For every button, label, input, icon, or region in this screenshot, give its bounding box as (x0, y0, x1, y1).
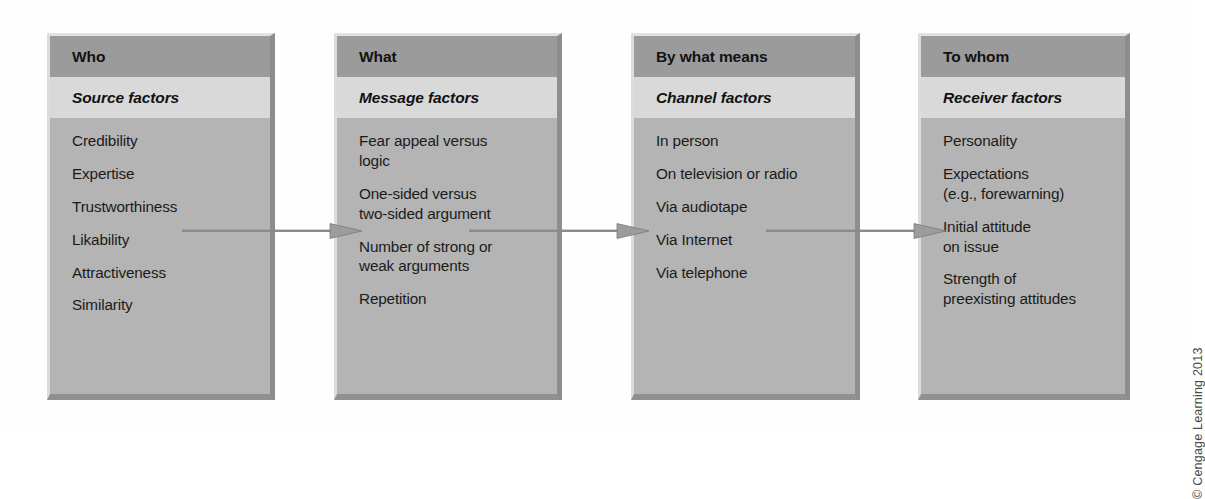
box-by-what-means-header: By what means (634, 36, 855, 77)
box-to-whom-subtitle-label: Receiver factors (943, 89, 1062, 107)
box-what-inner: What Message factors Fear appeal versus … (337, 36, 557, 394)
list-item: On television or radio (656, 164, 839, 184)
diagram-box-who: Who Source factors Credibility Expertise… (47, 33, 275, 400)
list-item: Fear appeal versus logic (359, 131, 541, 171)
list-item: Attractiveness (72, 263, 254, 283)
box-to-whom-header-label: To whom (943, 48, 1009, 66)
box-by-what-means-item-list: In person On television or radio Via aud… (634, 118, 855, 282)
list-item: Expectations (e.g., forewarning) (943, 164, 1109, 204)
box-by-what-means-inner: By what means Channel factors In person … (634, 36, 855, 394)
arrow-right-icon (766, 222, 946, 240)
box-to-whom-inner: To whom Receiver factors Personality Exp… (921, 36, 1125, 394)
box-by-what-means-header-label: By what means (656, 48, 768, 66)
box-what-header-label: What (359, 48, 396, 66)
arrow-right-icon (182, 222, 362, 240)
box-who-header-label: Who (72, 48, 105, 66)
box-what-header: What (337, 36, 557, 77)
box-what-subtitle-label: Message factors (359, 89, 479, 107)
copyright-notice: © Cengage Learning 2013 (1191, 347, 1205, 498)
list-item: Repetition (359, 289, 541, 309)
box-who-subtitle: Source factors (50, 77, 270, 118)
diagram-box-what: What Message factors Fear appeal versus … (334, 33, 562, 400)
list-item: Via telephone (656, 263, 839, 283)
box-who-subtitle-label: Source factors (72, 89, 179, 107)
diagram-box-by-what-means: By what means Channel factors In person … (631, 33, 860, 400)
box-what-item-list: Fear appeal versus logic One-sided versu… (337, 118, 557, 309)
diagram-box-to-whom: To whom Receiver factors Personality Exp… (918, 33, 1130, 400)
list-item: Credibility (72, 131, 254, 151)
box-who-item-list: Credibility Expertise Trustworthiness Li… (50, 118, 270, 315)
box-to-whom-item-list: Personality Expectations (e.g., forewarn… (921, 118, 1125, 309)
list-item: Strength of preexisting attitudes (943, 269, 1109, 309)
arrow-right-icon (469, 222, 649, 240)
list-item: Initial attitude on issue (943, 217, 1109, 257)
list-item: Personality (943, 131, 1109, 151)
box-what-subtitle: Message factors (337, 77, 557, 118)
box-by-what-means-subtitle: Channel factors (634, 77, 855, 118)
box-who-inner: Who Source factors Credibility Expertise… (50, 36, 270, 394)
box-to-whom-header: To whom (921, 36, 1125, 77)
list-item: In person (656, 131, 839, 151)
box-by-what-means-subtitle-label: Channel factors (656, 89, 772, 107)
list-item: Similarity (72, 295, 254, 315)
list-item: Expertise (72, 164, 254, 184)
list-item: Trustworthiness (72, 197, 254, 217)
box-who-header: Who (50, 36, 270, 77)
list-item: One-sided versus two-sided argument (359, 184, 541, 224)
list-item: Number of strong or weak arguments (359, 237, 541, 277)
box-to-whom-subtitle: Receiver factors (921, 77, 1125, 118)
list-item: Via audiotape (656, 197, 839, 217)
